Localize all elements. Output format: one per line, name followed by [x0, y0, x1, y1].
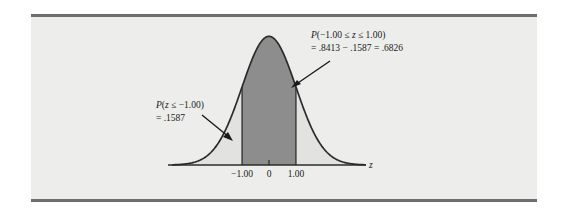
lower-annotation-close: ≤ −1.00) [169, 100, 204, 111]
axis-label-z: z [368, 160, 373, 170]
central-shaded-area [242, 36, 296, 165]
normal-distribution-plot: −1.00 0 1.00 z P(−1.00 ≤ z ≤ 1.00) = .84… [0, 0, 566, 216]
tick-label-pos-1: 1.00 [288, 169, 305, 179]
upper-annotation-line1: P(−1.00 ≤ z ≤ 1.00) [310, 30, 385, 41]
upper-annotation-close: ≤ 1.00) [356, 30, 386, 41]
lower-annotation-arrow [202, 115, 229, 137]
upper-annotation-open: (−1.00 ≤ [317, 30, 352, 41]
lower-annotation-line1: P(z ≤ −1.00) [155, 100, 204, 111]
upper-annotation-arrow [295, 61, 330, 85]
tick-label-neg-1: −1.00 [231, 169, 253, 179]
tick-label-zero: 0 [267, 169, 272, 179]
upper-annotation-line2: = .8413 − .1587 = .6826 [311, 43, 403, 53]
lower-annotation-line2: = .1587 [156, 113, 185, 123]
figure-root: −1.00 0 1.00 z P(−1.00 ≤ z ≤ 1.00) = .84… [0, 0, 566, 216]
